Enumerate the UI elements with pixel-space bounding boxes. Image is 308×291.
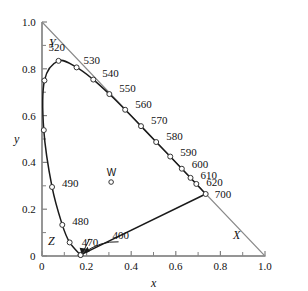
wavelength-marker-570 — [139, 124, 144, 129]
wavelength-label-550: 550 — [119, 82, 136, 94]
wavelength-label-570: 570 — [151, 114, 168, 126]
y-axis-tick-label: 1.0 — [22, 16, 36, 28]
wavelength-label-540: 540 — [102, 67, 119, 79]
wavelength-marker-530 — [74, 65, 79, 70]
wavelength-label-560: 560 — [135, 98, 152, 110]
wavelength-label-580: 580 — [166, 130, 183, 142]
wavelength-marker — [42, 78, 47, 83]
wavelength-marker-560 — [123, 107, 128, 112]
wavelength-label-480: 480 — [72, 215, 89, 227]
wavelength-label-590: 590 — [180, 146, 197, 158]
wavelength-label-620: 620 — [206, 176, 223, 188]
wavelength-label-700: 700 — [215, 188, 232, 200]
wavelength-marker-700 — [203, 191, 208, 196]
wavelength-marker-550 — [107, 92, 112, 97]
wavelength-marker — [41, 128, 46, 133]
chromaticity-diagram-figure: 00.20.40.60.81.000.20.40.60.81.0xy470480… — [0, 0, 308, 291]
wavelength-marker-540 — [91, 77, 96, 82]
y-axis-tick-label: 0.8 — [22, 63, 36, 75]
vertex-label-y: Y — [49, 36, 56, 51]
x-axis-tick-label: 0.6 — [169, 260, 183, 272]
white-point-marker — [109, 180, 114, 185]
wavelength-marker-480 — [60, 222, 65, 227]
vertex-label-x: X — [233, 228, 240, 243]
wavelength-label-490: 490 — [62, 177, 79, 189]
wavelength-marker-600 — [179, 166, 184, 171]
y-axis-tick-label: 0.2 — [22, 203, 36, 215]
chart-canvas — [0, 0, 308, 291]
wavelength-label-470: 470 — [82, 236, 99, 248]
y-axis-tick-label: 0.4 — [22, 156, 36, 168]
purple-line — [81, 194, 206, 255]
y-axis-tick-label: 0.6 — [22, 110, 36, 122]
x-axis-tick-label: 0.2 — [80, 260, 94, 272]
wavelength-marker-520 — [56, 58, 61, 63]
wavelength-marker — [78, 253, 83, 258]
wavelength-label-400: 400 — [113, 229, 130, 241]
white-point-label: W — [107, 167, 116, 178]
wavelength-label-530: 530 — [84, 54, 101, 66]
x-axis-tick-label: 1.0 — [258, 260, 272, 272]
x-axis-tick-label: 0.4 — [124, 260, 138, 272]
x-axis-tick-label: 0.8 — [213, 260, 227, 272]
wavelength-marker-470 — [67, 240, 72, 245]
wavelength-marker-490 — [50, 184, 55, 189]
wavelength-marker-610 — [188, 175, 193, 180]
wavelength-marker-590 — [168, 154, 173, 159]
vertex-label-z: Z — [48, 234, 55, 249]
wavelength-marker-580 — [154, 140, 159, 145]
x-axis-tick-label: 0 — [39, 260, 45, 272]
wavelength-marker-620 — [194, 181, 199, 186]
x-axis-title: x — [151, 276, 156, 291]
y-axis-tick-label: 0 — [30, 250, 36, 262]
y-axis-title: y — [14, 132, 19, 147]
